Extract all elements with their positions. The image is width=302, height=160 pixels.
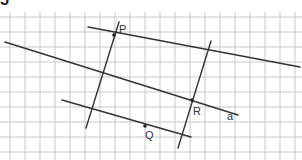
- point-label-p: P: [119, 23, 126, 35]
- point-q: [143, 124, 147, 128]
- geometry-diagram: 5 PRQa: [0, 0, 302, 160]
- grid-canvas: PRQa: [0, 0, 302, 160]
- exercise-number: 5: [0, 0, 9, 9]
- point-r: [190, 98, 194, 102]
- line-through-r-transversal: [178, 41, 211, 148]
- line-through-q-parallel-a: [62, 100, 191, 137]
- labels: PRQa: [119, 23, 234, 141]
- point-label-r: R: [193, 105, 201, 117]
- line-label-a: a: [227, 110, 234, 122]
- point-p: [112, 33, 116, 37]
- point-label-q: Q: [145, 129, 154, 141]
